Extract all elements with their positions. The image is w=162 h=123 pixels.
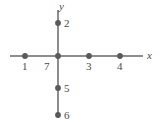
point-label: 1 <box>22 61 28 72</box>
point-label: 6 <box>64 110 70 121</box>
x-axis-label: x <box>147 50 152 61</box>
plotted-points-group <box>22 20 123 118</box>
point-label: 3 <box>86 61 92 72</box>
point-label: 4 <box>117 61 123 72</box>
y-axis-label: y <box>59 1 64 12</box>
point-label: 5 <box>64 83 70 94</box>
point-marker <box>86 53 92 59</box>
point-marker <box>55 112 61 118</box>
point-label: 2 <box>64 18 70 29</box>
point-marker <box>117 53 123 59</box>
point-marker <box>55 85 61 91</box>
point-marker <box>55 53 61 59</box>
coordinate-axes-figure: 1734256 x y <box>0 0 162 123</box>
point-label: 7 <box>44 61 50 72</box>
point-marker <box>55 20 61 26</box>
point-marker <box>22 53 28 59</box>
